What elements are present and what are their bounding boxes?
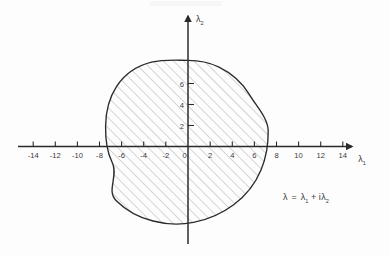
x-tick-label: -14	[28, 151, 39, 160]
x-tick-label: 4	[230, 151, 234, 160]
x-tick-label: 2	[208, 151, 212, 160]
y-axis-label-sub: 2	[201, 20, 204, 26]
x-tick-label: -12	[50, 151, 61, 160]
y-tick-label: 2	[180, 122, 184, 131]
formula-equals: =	[292, 192, 297, 202]
x-tick-label: 6	[252, 151, 256, 160]
figure-container: -14 -12 -10 -8 -6 -4 -2 0 2 4 6 8 10 12 …	[0, 0, 390, 257]
x-tick-label: 12	[316, 151, 324, 160]
x-axis-label-sub: 1	[363, 160, 366, 166]
x-tick-label: -2	[162, 151, 169, 160]
lambda-plane-plot: -14 -12 -10 -8 -6 -4 -2 0 2 4 6 8 10 12 …	[0, 0, 390, 257]
x-tick-label: -6	[118, 151, 125, 160]
region-fill	[106, 60, 269, 224]
svg-text:λ=λ1+iλ2: λ=λ1+iλ2	[283, 192, 329, 204]
x-tick-label: -4	[140, 151, 147, 160]
y-tick-label: 4	[180, 101, 184, 110]
x-tick-label: 10	[294, 151, 302, 160]
stability-region	[106, 60, 269, 224]
x-tick-label: 14	[339, 151, 347, 160]
x-tick-label: 8	[274, 151, 278, 160]
x-tick-label: 0	[182, 151, 186, 160]
formula-lambda: λ	[283, 192, 288, 202]
formula-annotation: λ=λ1+iλ2	[283, 192, 329, 204]
formula-sub-one: 1	[305, 198, 308, 204]
x-axis-label: λ1	[358, 154, 366, 166]
formula-sub-two: 2	[326, 198, 329, 204]
y-tick-label: 6	[180, 80, 184, 89]
formula-plus: +	[311, 192, 316, 202]
y-axis-tick-labels: 2 4 6	[180, 80, 184, 131]
y-axis-label: λ2	[196, 14, 204, 26]
x-tick-label: -8	[96, 151, 103, 160]
x-tick-label: -10	[72, 151, 83, 160]
